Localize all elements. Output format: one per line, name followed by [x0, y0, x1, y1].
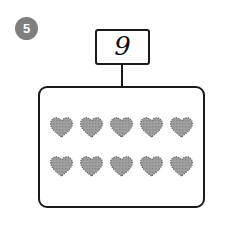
- heart-grid: [40, 88, 203, 206]
- heart-icon: [50, 117, 73, 138]
- worksheet-canvas: 5 9: [0, 0, 227, 226]
- question-number-label: 5: [23, 22, 30, 35]
- heart-icon: [80, 117, 103, 138]
- heart-icon: [140, 117, 163, 138]
- heart-icon: [80, 156, 103, 177]
- counting-box[interactable]: [38, 86, 205, 208]
- heart-icon: [50, 156, 73, 177]
- heart-icon: [140, 156, 163, 177]
- heart-icon: [110, 156, 133, 177]
- number-card[interactable]: 9: [95, 29, 150, 65]
- heart-icon: [110, 117, 133, 138]
- heart-icon: [170, 117, 193, 138]
- heart-row: [46, 117, 197, 138]
- heart-icon: [170, 156, 193, 177]
- heart-row: [46, 156, 197, 177]
- question-number-badge: 5: [15, 17, 38, 40]
- number-card-post: [121, 64, 123, 88]
- number-card-value: 9: [114, 33, 131, 59]
